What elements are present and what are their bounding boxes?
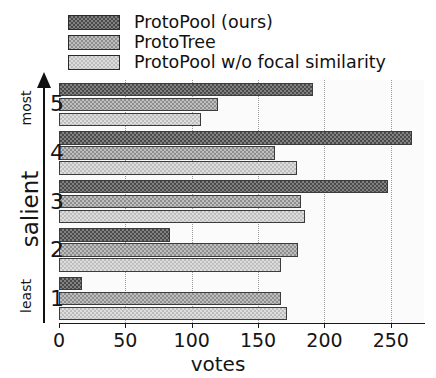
x-tick-200 — [324, 323, 325, 328]
legend-label-protopool-ours: ProtoPool (ours) — [134, 13, 273, 32]
legend-label-protopool-no-focal: ProtoPool w/o focal similarity — [134, 53, 386, 72]
y-tick-label-4: 4 — [50, 141, 64, 165]
y-axis-title: salient — [17, 149, 43, 269]
bar-cat2-series2 — [59, 258, 281, 272]
x-tick-0 — [59, 323, 60, 328]
y-tick-label-3: 3 — [50, 190, 64, 214]
medium-hatch-swatch-icon — [68, 35, 120, 50]
dark-hatch-swatch-icon — [68, 15, 120, 30]
x-tick-label-250: 250 — [373, 329, 409, 351]
bar-cat2-series0 — [59, 228, 170, 242]
y-axis-arrow-shaft — [43, 86, 45, 323]
y-tick-label-5: 5 — [50, 92, 64, 116]
x-tick-label-200: 200 — [306, 329, 342, 351]
legend-item-prototree: ProtoTree — [68, 32, 418, 52]
gridline-250 — [391, 80, 392, 323]
y-axis-high-label: most — [18, 78, 34, 138]
x-tick-label-50: 50 — [113, 329, 137, 351]
bar-cat4-series2 — [59, 161, 297, 175]
x-tick-250 — [391, 323, 392, 328]
chart-legend: ProtoPool (ours) ProtoTree ProtoPool w/o… — [68, 12, 418, 72]
plot-area — [59, 80, 424, 323]
x-axis-line — [59, 323, 425, 324]
bar-cat3-series1 — [59, 195, 301, 209]
x-tick-50 — [125, 323, 126, 328]
legend-item-protopool-no-focal: ProtoPool w/o focal similarity — [68, 52, 418, 72]
y-axis-low-label: least — [18, 266, 34, 326]
x-tick-label-150: 150 — [240, 329, 276, 351]
legend-label-prototree: ProtoTree — [134, 33, 216, 52]
bar-cat5-series1 — [59, 98, 218, 112]
bar-cat2-series1 — [59, 243, 298, 257]
light-hatch-swatch-icon — [68, 55, 120, 70]
bar-cat1-series2 — [59, 307, 287, 321]
gridline-200 — [324, 80, 325, 323]
bar-cat4-series0 — [59, 131, 412, 145]
bar-cat3-series0 — [59, 180, 388, 194]
x-tick-label-100: 100 — [174, 329, 210, 351]
y-tick-label-1: 1 — [50, 287, 64, 311]
bar-cat5-series2 — [59, 113, 201, 127]
x-tick-label-0: 0 — [53, 329, 65, 351]
x-tick-150 — [258, 323, 259, 328]
x-axis-title: votes — [0, 352, 436, 376]
y-tick-label-2: 2 — [50, 238, 64, 262]
bar-cat1-series1 — [59, 292, 281, 306]
bar-cat3-series2 — [59, 210, 305, 224]
legend-item-protopool-ours: ProtoPool (ours) — [68, 12, 418, 32]
x-tick-100 — [192, 323, 193, 328]
bar-cat4-series1 — [59, 146, 275, 160]
bar-chart-figure: ProtoPool (ours) ProtoTree ProtoPool w/o… — [0, 0, 436, 378]
bar-cat5-series0 — [59, 83, 313, 97]
y-axis-arrow-head-icon — [37, 72, 51, 88]
